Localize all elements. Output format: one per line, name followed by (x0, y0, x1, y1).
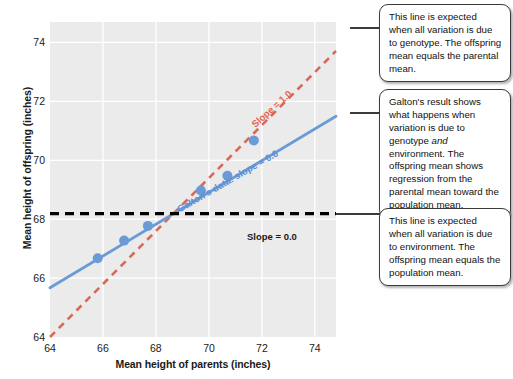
connector-genotype (350, 27, 382, 29)
callout-genotype-text: This line is expected when all variation… (389, 11, 501, 74)
x-axis-title: Mean height of parents (inches) (50, 358, 336, 370)
x-tick-70: 70 (203, 342, 215, 354)
grid-vertical (103, 22, 315, 337)
x-tick-72: 72 (256, 342, 268, 354)
data-point (93, 253, 103, 263)
callout-environment: This line is expected when all variation… (379, 208, 511, 286)
callout-genotype: This line is expected when all variation… (379, 4, 511, 82)
y-axis-title: Mean height of offspring (inches) (21, 53, 33, 283)
plot-area: 74 72 70 68 66 64 64 66 68 70 72 74 (50, 22, 336, 337)
data-point (249, 135, 259, 145)
callout-environment-text: This line is expected when all variation… (389, 215, 500, 278)
callout-galton: Galton's result shows what happens when … (379, 89, 511, 219)
connector-galton (350, 112, 382, 114)
y-tick-74: 74 (33, 36, 45, 48)
data-point (143, 221, 153, 231)
regression-to-mean-figure: Mean height of offspring (inches) Mean h… (0, 0, 513, 379)
data-point (119, 236, 129, 246)
x-tick-74: 74 (309, 342, 321, 354)
grid-horizontal (50, 42, 336, 278)
y-tick-66: 66 (33, 272, 45, 284)
chart-canvas (50, 22, 336, 337)
x-tick-68: 68 (150, 342, 162, 354)
callout-galton-emphasis: and (432, 135, 448, 146)
connector-environment (336, 213, 382, 215)
x-tick-66: 66 (97, 342, 109, 354)
data-points (93, 135, 259, 263)
y-tick-70: 70 (33, 154, 45, 166)
x-tick-64: 64 (44, 342, 56, 354)
y-tick-72: 72 (33, 95, 45, 107)
callout-galton-text-part2: environment. The offspring mean shows re… (389, 148, 499, 211)
y-tick-68: 68 (33, 213, 45, 225)
annotation-slope-zero: Slope = 0.0 (247, 231, 297, 242)
